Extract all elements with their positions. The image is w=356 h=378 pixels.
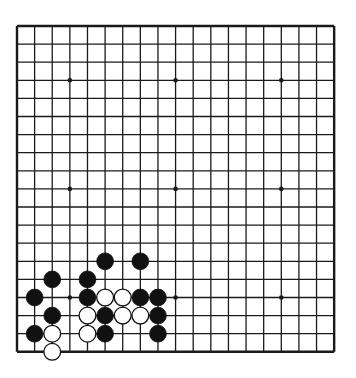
black-stone[interactable]: [150, 307, 167, 324]
go-board[interactable]: [0, 0, 356, 378]
black-stone[interactable]: [44, 307, 61, 324]
star-point: [173, 78, 178, 83]
white-stone[interactable]: [114, 289, 131, 306]
black-stone[interactable]: [132, 253, 149, 270]
white-stone[interactable]: [79, 325, 96, 342]
stones-layer: [26, 253, 166, 360]
white-stone[interactable]: [79, 307, 96, 324]
black-stone[interactable]: [97, 325, 114, 342]
black-stone[interactable]: [26, 325, 43, 342]
black-stone[interactable]: [150, 325, 167, 342]
star-point: [279, 187, 284, 192]
white-stone[interactable]: [44, 325, 61, 342]
black-stone[interactable]: [26, 289, 43, 306]
white-stone[interactable]: [44, 343, 61, 360]
star-point: [68, 295, 73, 300]
black-stone[interactable]: [79, 289, 96, 306]
black-stone[interactable]: [44, 271, 61, 288]
black-stone[interactable]: [132, 289, 149, 306]
star-point: [173, 295, 178, 300]
black-stone[interactable]: [97, 253, 114, 270]
black-stone[interactable]: [150, 289, 167, 306]
star-point: [173, 187, 178, 192]
star-point: [279, 295, 284, 300]
star-point: [68, 78, 73, 83]
star-point: [68, 187, 73, 192]
white-stone[interactable]: [132, 307, 149, 324]
black-stone[interactable]: [79, 271, 96, 288]
white-stone[interactable]: [114, 307, 131, 324]
black-stone[interactable]: [97, 307, 114, 324]
white-stone[interactable]: [97, 289, 114, 306]
star-point: [279, 78, 284, 83]
